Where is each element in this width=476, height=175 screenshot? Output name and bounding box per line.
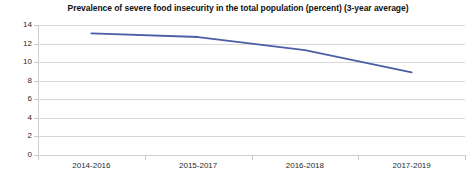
x-axis-tick-label: 2015-2017 (179, 161, 217, 170)
gridline (38, 118, 465, 119)
gridline (38, 44, 465, 45)
y-axis-tick-label: 0 (8, 151, 32, 159)
x-axis-tick-mark (465, 155, 466, 160)
y-axis-tick-label: 10 (8, 58, 32, 66)
gridline (38, 25, 465, 26)
x-axis-tick-mark (38, 155, 39, 160)
y-axis-tick-label: 14 (8, 21, 32, 29)
line-chart: Prevalence of severe food insecurity in … (0, 0, 476, 175)
gridline (38, 136, 465, 137)
y-axis-tick-label: 8 (8, 77, 32, 85)
y-axis-labels: 02468101214 (6, 0, 32, 175)
x-axis-tick-mark (145, 155, 146, 160)
gridline (38, 62, 465, 63)
y-axis-tick-mark (34, 136, 38, 137)
y-axis-tick-mark (34, 62, 38, 63)
gridline (38, 81, 465, 82)
y-axis-line (38, 25, 39, 155)
plot-area (38, 25, 465, 155)
chart-title: Prevalence of severe food insecurity in … (0, 3, 476, 13)
y-axis-tick-mark (34, 44, 38, 45)
y-axis-tick-mark (34, 25, 38, 26)
y-axis-tick-label: 2 (8, 132, 32, 140)
x-axis-tick-label: 2017-2019 (392, 161, 430, 170)
gridline (38, 99, 465, 100)
x-axis-tick-mark (252, 155, 253, 160)
y-axis-tick-label: 4 (8, 114, 32, 122)
x-axis-tick-label: 2014-2016 (72, 161, 110, 170)
x-axis-tick-label: 2016-2018 (286, 161, 324, 170)
y-axis-tick-mark (34, 118, 38, 119)
y-axis-tick-label: 6 (8, 95, 32, 103)
y-axis-tick-label: 12 (8, 40, 32, 48)
y-axis-tick-mark (34, 99, 38, 100)
y-axis-tick-mark (34, 81, 38, 82)
x-axis-tick-mark (358, 155, 359, 160)
